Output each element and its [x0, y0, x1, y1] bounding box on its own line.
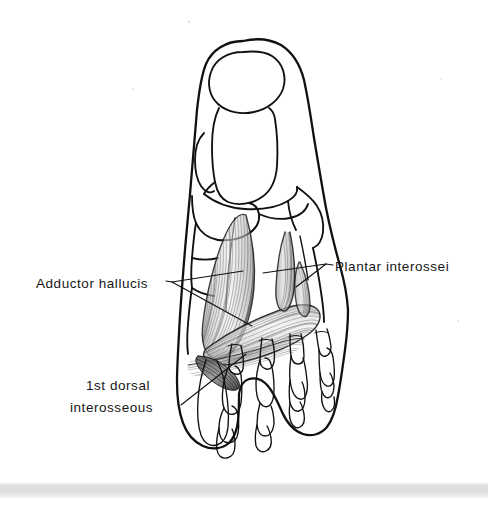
anatomical-figure: Adductor hallucis Plantar interossei 1st… [0, 0, 488, 508]
label-first-dorsal-interosseous-line-2: interosseous [70, 400, 153, 415]
scan-edge-band [0, 482, 488, 498]
paper-speck [440, 78, 442, 80]
paper-speck [188, 21, 190, 23]
foot-anatomy-illustration: Adductor hallucis Plantar interossei 1st… [0, 0, 488, 508]
label-first-dorsal-interosseous-line-1: 1st dorsal [86, 378, 150, 393]
label-adductor-hallucis: Adductor hallucis [36, 276, 148, 291]
paper-speck [457, 320, 459, 322]
label-plantar-interossei: Plantar interossei [335, 259, 449, 274]
paper-speck [132, 88, 134, 90]
